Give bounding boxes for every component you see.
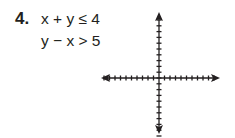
coordinate-plane (0, 0, 235, 138)
